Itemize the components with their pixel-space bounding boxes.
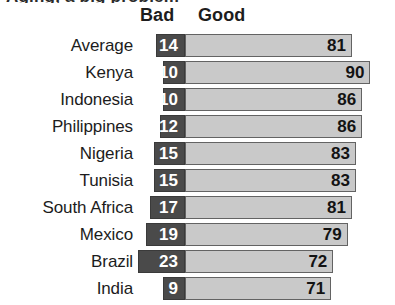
row-bars: 1481 bbox=[0, 34, 395, 57]
chart-row: Mexico1979 bbox=[0, 223, 395, 246]
chart-row: India971 bbox=[0, 277, 395, 300]
bad-bar-value: 19 bbox=[159, 224, 178, 247]
good-bar-value: 86 bbox=[337, 89, 356, 112]
diverging-bar-chart: Aging, a big problem Bad Good Average148… bbox=[0, 0, 395, 305]
chart-row: Indonesia1086 bbox=[0, 88, 395, 111]
bad-bar: 10 bbox=[163, 61, 185, 84]
bad-bar-value: 10 bbox=[159, 62, 178, 85]
good-bar: 83 bbox=[185, 169, 356, 192]
bad-bar-value: 12 bbox=[159, 116, 178, 139]
bad-bar: 9 bbox=[163, 277, 185, 300]
row-bars: 1583 bbox=[0, 142, 395, 165]
chart-row: Kenya1090 bbox=[0, 61, 395, 84]
chart-row: Philippines1286 bbox=[0, 115, 395, 138]
chart-row: Tunisia1583 bbox=[0, 169, 395, 192]
good-bar-value: 81 bbox=[327, 197, 346, 220]
bad-bar: 17 bbox=[150, 196, 185, 219]
clipped-heading-descenders: Aging, a big problem bbox=[0, 0, 395, 3]
good-bar: 86 bbox=[185, 88, 362, 111]
bad-bar-value: 15 bbox=[159, 143, 178, 166]
good-bar-value: 83 bbox=[331, 143, 350, 166]
chart-row: Brazil2372 bbox=[0, 250, 395, 273]
column-header-bad: Bad bbox=[140, 5, 174, 26]
row-bars: 1781 bbox=[0, 196, 395, 219]
good-bar-value: 71 bbox=[306, 278, 325, 301]
row-bars: 1286 bbox=[0, 115, 395, 138]
bad-bar: 15 bbox=[154, 169, 185, 192]
bad-bar-value: 10 bbox=[159, 89, 178, 112]
bad-bar: 14 bbox=[156, 34, 185, 57]
good-bar-value: 72 bbox=[308, 251, 327, 274]
chart-row: Average1481 bbox=[0, 34, 395, 57]
good-bar-value: 79 bbox=[323, 224, 342, 247]
good-bar-value: 81 bbox=[327, 35, 346, 58]
good-bar: 86 bbox=[185, 115, 362, 138]
good-bar-value: 83 bbox=[331, 170, 350, 193]
row-bars: 2372 bbox=[0, 250, 395, 273]
good-bar: 72 bbox=[185, 250, 333, 273]
good-bar: 79 bbox=[185, 223, 348, 246]
bad-bar: 19 bbox=[146, 223, 185, 246]
good-bar: 83 bbox=[185, 142, 356, 165]
bad-bar: 12 bbox=[160, 115, 185, 138]
bad-bar-value: 17 bbox=[159, 197, 178, 220]
column-header-good: Good bbox=[198, 5, 245, 26]
row-bars: 1979 bbox=[0, 223, 395, 246]
row-bars: 1583 bbox=[0, 169, 395, 192]
bad-bar-value: 9 bbox=[169, 278, 178, 301]
good-bar: 81 bbox=[185, 196, 352, 219]
bad-bar: 23 bbox=[138, 250, 185, 273]
row-bars: 1090 bbox=[0, 61, 395, 84]
bad-bar-value: 15 bbox=[159, 170, 178, 193]
good-bar: 81 bbox=[185, 34, 352, 57]
chart-rows: Average1481Kenya1090Indonesia1086Philipp… bbox=[0, 34, 395, 304]
bad-bar-value: 14 bbox=[159, 35, 178, 58]
good-bar: 90 bbox=[185, 61, 370, 84]
good-bar-value: 86 bbox=[337, 116, 356, 139]
bad-bar-value: 23 bbox=[159, 251, 178, 274]
column-headers: Bad Good bbox=[0, 5, 395, 31]
row-bars: 971 bbox=[0, 277, 395, 300]
good-bar: 71 bbox=[185, 277, 331, 300]
good-bar-value: 90 bbox=[345, 62, 364, 85]
bad-bar: 15 bbox=[154, 142, 185, 165]
chart-row: South Africa1781 bbox=[0, 196, 395, 219]
chart-row: Nigeria1583 bbox=[0, 142, 395, 165]
row-bars: 1086 bbox=[0, 88, 395, 111]
bad-bar: 10 bbox=[163, 88, 185, 111]
